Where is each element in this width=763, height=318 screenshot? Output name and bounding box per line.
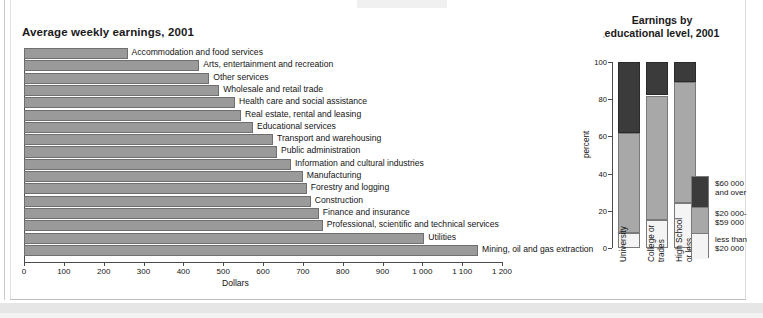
x-tick	[343, 262, 344, 266]
x-tick	[223, 262, 224, 266]
y-tick-label: 20	[599, 206, 612, 215]
y-tick-label: 60	[599, 132, 612, 141]
x-tick-label: 100	[57, 267, 70, 276]
legend-label: less than$20 000	[715, 235, 747, 254]
bar-row: Professional, scientific and technical s…	[22, 220, 522, 231]
stack-segment	[618, 133, 640, 233]
bar	[24, 233, 424, 244]
right-chart-plot-area: percent 020406080100UniversityCollege or…	[612, 62, 696, 258]
x-tick-label: 600	[256, 267, 269, 276]
legend-label-line1: $20 000-	[715, 209, 747, 218]
bar	[24, 183, 307, 194]
x-tick	[383, 262, 384, 266]
legend-label-line2: $20 000	[715, 244, 747, 253]
legend-label-line2: $59 000	[715, 218, 747, 227]
x-tick-label: 700	[296, 267, 309, 276]
stack-segment	[674, 62, 696, 82]
bar	[24, 60, 199, 71]
x-tick	[502, 262, 503, 266]
right-chart-y-axis	[612, 62, 613, 248]
bar-label: Real estate, rental and leasing	[245, 109, 361, 119]
right-chart-y-axis-label: percent	[582, 131, 591, 158]
bar-row: Transport and warehousing	[22, 134, 522, 145]
x-tick-label: 900	[376, 267, 389, 276]
legend-label: $60 000and over	[715, 179, 746, 198]
bar-label: Accommodation and food services	[132, 47, 263, 57]
y-tick-label: 80	[599, 95, 612, 104]
bar	[24, 97, 235, 108]
bar-row: Arts, entertainment and recreation	[22, 60, 522, 71]
legend-swatch	[692, 207, 708, 233]
legend-swatch-column	[691, 176, 709, 258]
bar-row: Utilities	[22, 233, 522, 244]
bar-label: Other services	[213, 72, 268, 82]
x-tick	[462, 262, 463, 266]
bar-row: Forestry and logging	[22, 183, 522, 194]
bar-label: Information and cultural industries	[295, 158, 424, 168]
x-tick	[144, 262, 145, 266]
bar	[24, 48, 128, 59]
bar	[24, 122, 253, 133]
x-tick-label: 400	[177, 267, 190, 276]
right-chart-title: Earnings by educational level, 2001	[582, 14, 742, 40]
bar-row: Health care and social assistance	[22, 97, 522, 108]
x-tick-label: 200	[97, 267, 110, 276]
bar	[24, 208, 319, 219]
x-tick	[24, 262, 25, 266]
bar	[24, 134, 273, 145]
bar-row: Manufacturing	[22, 171, 522, 182]
bar-row: Finance and insurance	[22, 208, 522, 219]
bar	[24, 196, 311, 207]
bar-label: Manufacturing	[307, 170, 361, 180]
y-tick-label: 100	[594, 58, 612, 67]
page-edge-left-inner	[10, 0, 11, 300]
bar-label: Professional, scientific and technical s…	[327, 219, 499, 229]
x-tick-label: 1 200	[492, 267, 512, 276]
page-bottom-band	[0, 303, 763, 313]
left-chart-plot-area: 01002003004005006007008009001 0001 1001 …	[22, 48, 522, 266]
bar-label: Wholesale and retail trade	[223, 84, 323, 94]
category-label-line1: University	[619, 226, 629, 262]
x-tick-label: 1 000	[412, 267, 432, 276]
right-chart-title-line1: Earnings by	[582, 14, 742, 27]
bar-label: Educational services	[257, 121, 336, 131]
bar	[24, 85, 219, 96]
legend-swatch	[692, 177, 708, 207]
category-label: University	[619, 226, 629, 262]
bar	[24, 220, 323, 231]
legend-swatch	[692, 233, 708, 259]
page-bottom-band-lower	[0, 313, 763, 318]
category-label-line2: trades	[657, 225, 667, 262]
left-chart-x-axis-label: Dollars	[222, 278, 249, 288]
weekly-earnings-chart: Average weekly earnings, 2001 0100200300…	[22, 26, 542, 294]
category-label: College ortrades	[647, 225, 666, 262]
bar-row: Construction	[22, 196, 522, 207]
stacked-bar	[646, 62, 668, 248]
legend-label-line1: less than	[715, 235, 747, 244]
category-label-line1: College or	[647, 225, 657, 262]
scan-speck	[603, 36, 605, 38]
scan-artifact	[357, 0, 447, 8]
bar-row: Educational services	[22, 122, 522, 133]
category-label-line1: High School	[675, 218, 685, 262]
page-bottom-rule	[10, 299, 746, 300]
x-tick-label: 500	[216, 267, 229, 276]
bar	[24, 110, 241, 121]
education-earnings-chart: Earnings by educational level, 2001 perc…	[576, 14, 762, 299]
x-tick	[303, 262, 304, 266]
bar-label: Public administration	[281, 145, 360, 155]
stack-segment	[646, 96, 668, 221]
left-chart-title: Average weekly earnings, 2001	[22, 26, 542, 38]
bar-row: Other services	[22, 73, 522, 84]
x-tick-label: 0	[22, 267, 26, 276]
page-edge-left	[4, 0, 5, 300]
legend-label-line1: $60 000	[715, 179, 746, 188]
bar-label: Forestry and logging	[311, 182, 389, 192]
bar-row: Accommodation and food services	[22, 48, 522, 59]
x-tick-label: 300	[137, 267, 150, 276]
bar-row: Information and cultural industries	[22, 159, 522, 170]
bar	[24, 245, 478, 256]
right-chart-title-line2: educational level, 2001	[582, 27, 742, 40]
stacked-bar	[618, 62, 640, 248]
bar-label: Transport and warehousing	[277, 133, 381, 143]
